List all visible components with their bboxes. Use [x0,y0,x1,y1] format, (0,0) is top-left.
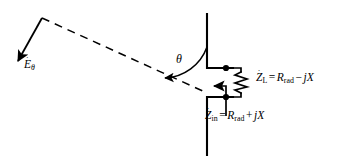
antenna-diagram: ˙ZL=Rrad−jX ˙Zin=Rrad+jX ˙Eθ θ [0,0,337,164]
zl-resistance: R [277,71,284,83]
efield-label: ˙Eθ [24,59,35,72]
efield-subscript: θ [31,63,35,72]
efield-vector-arrow [18,18,42,61]
zin-reactance: jX [254,109,264,121]
zin-operator: + [245,109,255,121]
zin-equals: = [218,109,228,121]
feed-terminal-upper [223,65,229,71]
dot-accent-e: ˙ [26,56,29,65]
z-symbol-with-dot: ˙Z [256,72,262,84]
zigzag-resistor [235,72,247,93]
zl-resistance-subscript: rad [284,76,294,85]
lower-antenna-arm [207,97,233,155]
resistor-lead-bottom [233,93,241,97]
resistor-lead-top [233,68,241,72]
upper-antenna-arm [207,14,233,68]
theta-angle-arc [165,47,207,78]
zin-subscript: in [211,114,217,123]
zl-operator: − [294,71,304,83]
z-symbol-with-dot-in: ˙Z [205,110,211,122]
load-impedance-label: ˙ZL=Rrad−jX [256,72,314,85]
e-symbol-with-dot: ˙E [24,59,31,71]
zl-reactance: jX [304,71,314,83]
input-impedance-label: ˙Zin=Rrad+jX [205,110,264,123]
zl-equals: = [267,71,277,83]
dot-accent-zl: ˙ [257,69,260,78]
dot-accent-zin: ˙ [206,107,209,116]
theta-angle-label: θ [176,53,182,65]
zin-resistance-subscript: rad [234,114,244,123]
